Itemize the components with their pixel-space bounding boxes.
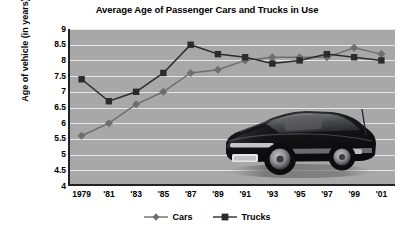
y-axis-tick: 6.5 (38, 103, 66, 112)
y-axis-tick: 7 (38, 87, 66, 96)
x-axis-tick: '83 (130, 189, 141, 199)
x-axis-tick: '93 (267, 189, 278, 199)
y-axis-tick: 6 (38, 119, 66, 128)
data-point-trucks-'97 (324, 51, 330, 57)
x-axis-tick: '99 (348, 189, 359, 199)
data-point-trucks-'01 (378, 57, 384, 63)
y-axis-tick: 5 (38, 150, 66, 159)
data-point-trucks-'95 (296, 57, 302, 63)
data-point-trucks-'93 (269, 60, 275, 66)
x-axis-tick: '95 (294, 189, 305, 199)
y-axis-tick-labels: 98.587.576.565.554.54 (33, 29, 66, 186)
chart-title: Average Age of Passenger Cars and Trucks… (0, 4, 414, 15)
diamond-marker-icon (143, 212, 169, 222)
data-point-cars-'01 (377, 50, 385, 58)
data-point-trucks-'83 (133, 89, 139, 95)
data-point-trucks-'99 (351, 54, 357, 60)
chart-container: Average Age of Passenger Cars and Trucks… (0, 0, 414, 236)
y-axis-tick: 8 (38, 56, 66, 65)
data-point-trucks-'87 (187, 42, 193, 48)
data-point-cars-'89 (214, 66, 222, 74)
data-point-cars-'93 (268, 53, 276, 61)
data-point-cars-1979 (78, 132, 86, 140)
legend-label-trucks: Trucks (241, 212, 270, 222)
x-axis-tick: '81 (103, 189, 114, 199)
data-point-cars-'99 (350, 44, 358, 52)
data-point-trucks-'91 (242, 54, 248, 60)
x-axis-tick: '87 (185, 189, 196, 199)
y-axis-tick: 4.5 (38, 166, 66, 175)
plot-area (68, 29, 395, 186)
data-point-trucks-'89 (215, 51, 221, 57)
data-point-trucks-1979 (78, 76, 84, 82)
data-point-trucks-'85 (160, 70, 166, 76)
y-axis-title: Age of vehicle (in years) (20, 0, 30, 130)
y-axis-tick: 9 (38, 25, 66, 34)
legend-label-cars: Cars (172, 212, 192, 222)
y-axis-tick: 7.5 (38, 72, 66, 81)
chart-legend: Cars Trucks (0, 212, 414, 222)
x-axis-tick: '97 (321, 189, 332, 199)
data-point-trucks-'81 (106, 98, 112, 104)
x-axis-tick: 1979 (72, 189, 91, 199)
x-axis-tick: '01 (376, 189, 387, 199)
x-axis-tick-labels: 1979'81'83'85'87'89'91'93'95'97'99'01 (68, 189, 395, 203)
y-axis-tick: 8.5 (38, 40, 66, 49)
x-axis-tick: '85 (158, 189, 169, 199)
legend-item-trucks[interactable]: Trucks (212, 212, 270, 222)
y-axis-tick: 4 (38, 182, 66, 191)
sports-car-photo (220, 91, 378, 183)
x-axis-tick: '89 (212, 189, 223, 199)
y-axis-tick: 5.5 (38, 134, 66, 143)
square-marker-icon (212, 212, 238, 222)
legend-item-cars[interactable]: Cars (143, 212, 192, 222)
x-axis-tick: '91 (239, 189, 250, 199)
